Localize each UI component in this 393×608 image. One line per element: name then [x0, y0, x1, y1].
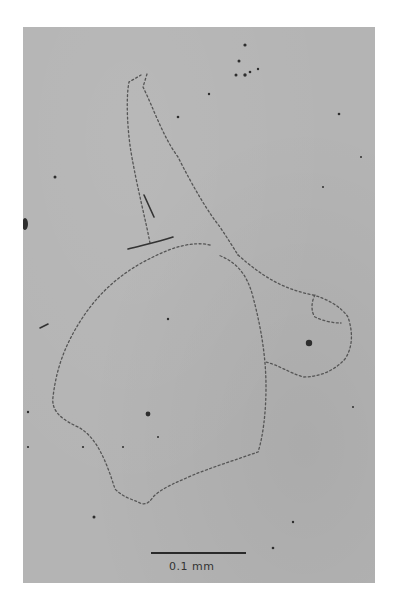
scale-bar — [151, 552, 246, 554]
cell-outline-drawing — [23, 27, 375, 583]
dark-streak-2 — [128, 237, 173, 249]
particles — [23, 43, 362, 549]
micrograph-image: 0.1 mm — [23, 27, 375, 583]
right-lobe-inner — [312, 295, 341, 323]
right-lobe-outline — [238, 255, 351, 377]
scale-bar-label: 0.1 mm — [169, 560, 239, 573]
main-body-outline — [53, 244, 266, 504]
dark-streak-3 — [40, 324, 48, 328]
dark-streak-1 — [144, 195, 154, 217]
upper-lobe-outline — [127, 74, 238, 255]
